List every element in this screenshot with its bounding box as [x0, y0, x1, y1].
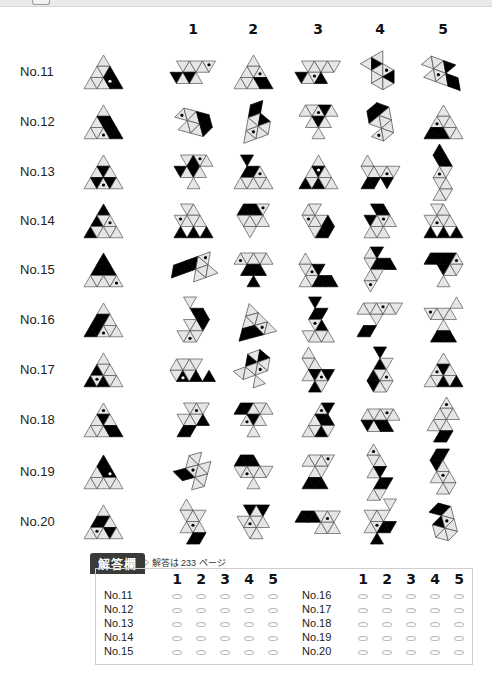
option-figure-2 [236, 203, 271, 239]
answer-bubble-no16-1[interactable] [358, 594, 368, 599]
answer-bubble-no11-3[interactable] [220, 594, 230, 599]
triangle-figure-icon [236, 504, 271, 540]
option-figure-4 [360, 408, 401, 433]
triangle-figure-icon [366, 54, 394, 90]
answer-bubble-no19-1[interactable] [358, 636, 368, 641]
answer-bubble-no17-3[interactable] [406, 608, 416, 613]
triangle-figure-icon [423, 203, 464, 239]
answer-bubble-no13-3[interactable] [220, 622, 230, 627]
answer-bubble-no17-1[interactable] [358, 608, 368, 613]
answer-bubble-no14-2[interactable] [196, 636, 206, 641]
triangle-figure-icon [298, 252, 339, 288]
top-tab [32, 0, 50, 5]
answer-bubble-no17-5[interactable] [454, 608, 464, 613]
answer-bubble-no20-4[interactable] [430, 650, 440, 655]
triangle-figure-icon [294, 510, 342, 535]
answer-bubble-no18-3[interactable] [406, 622, 416, 627]
option-figure-5 [423, 104, 464, 140]
answer-bubble-no14-1[interactable] [172, 636, 182, 641]
triangle-figure-icon [169, 358, 217, 383]
reference-figure [83, 454, 124, 490]
answer-bubble-no11-5[interactable] [268, 594, 278, 599]
option-figure-4 [366, 443, 394, 501]
triangle-figure-icon [83, 402, 124, 438]
answer-bubble-no13-1[interactable] [172, 622, 182, 627]
answer-bubble-no15-5[interactable] [268, 650, 278, 655]
answer-bubble-no16-5[interactable] [454, 594, 464, 599]
triangle-figure-icon [83, 504, 124, 540]
answer-bubble-no14-5[interactable] [268, 636, 278, 641]
answer-bubble-no15-2[interactable] [196, 650, 206, 655]
answer-bubble-no12-3[interactable] [220, 608, 230, 613]
answer-bubble-no11-1[interactable] [172, 594, 182, 599]
answer-bubble-no14-3[interactable] [220, 636, 230, 641]
answer-bubble-no12-4[interactable] [244, 608, 254, 613]
option-figure-5 [423, 296, 464, 343]
reference-figure [83, 504, 124, 540]
option-figure-3 [298, 154, 339, 190]
answer-bubble-no11-4[interactable] [244, 594, 254, 599]
answer-bubble-no19-4[interactable] [430, 636, 440, 641]
answer-bubble-no18-5[interactable] [454, 622, 464, 627]
answer-bubble-no19-3[interactable] [406, 636, 416, 641]
answer-bubble-no14-4[interactable] [244, 636, 254, 641]
option-figure-5 [419, 60, 467, 85]
answer-bubble-no12-2[interactable] [196, 608, 206, 613]
answer-column-header-5: 5 [265, 571, 281, 587]
problem-label: No.19 [20, 464, 55, 479]
problem-label: No.20 [20, 514, 55, 529]
option-figure-1 [169, 258, 217, 283]
triangle-figure-icon [301, 454, 336, 490]
option-figure-3 [298, 104, 339, 140]
answer-bubble-no18-4[interactable] [430, 622, 440, 627]
option-figure-4 [366, 346, 394, 393]
answer-column-header-4: 4 [241, 571, 257, 587]
option-figure-4 [363, 498, 398, 545]
option-figure-1 [176, 402, 211, 438]
triangle-figure-icon [83, 54, 124, 90]
answer-bubble-no20-5[interactable] [454, 650, 464, 655]
answer-bubble-no11-2[interactable] [196, 594, 206, 599]
answer-bubble-no15-4[interactable] [244, 650, 254, 655]
answer-bubble-no18-2[interactable] [382, 622, 392, 627]
answer-bubble-no18-1[interactable] [358, 622, 368, 627]
answer-bubble-no12-1[interactable] [172, 608, 182, 613]
triangle-figure-icon [423, 352, 464, 388]
answer-bubble-no16-2[interactable] [382, 594, 392, 599]
option-figure-5 [423, 203, 464, 239]
answer-row-label: No.15 [104, 645, 133, 657]
option-figure-1 [173, 454, 214, 490]
answer-bubble-no15-3[interactable] [220, 650, 230, 655]
option-figure-1 [169, 358, 217, 383]
answer-bubble-no19-2[interactable] [382, 636, 392, 641]
answer-bubble-no17-4[interactable] [430, 608, 440, 613]
triangle-figure-icon [173, 154, 214, 190]
answer-bubble-no13-5[interactable] [268, 622, 278, 627]
answer-bubble-no13-4[interactable] [244, 622, 254, 627]
answer-bubble-no20-1[interactable] [358, 650, 368, 655]
triangle-figure-icon [83, 203, 124, 239]
answer-bubble-no16-4[interactable] [430, 594, 440, 599]
answer-column-header-1: 1 [169, 571, 185, 587]
answer-bubble-no13-2[interactable] [196, 622, 206, 627]
triangle-figure-icon [83, 454, 124, 490]
option-figure-4 [363, 104, 398, 140]
answer-bubble-no16-3[interactable] [406, 594, 416, 599]
triangle-figure-icon [423, 104, 464, 140]
option-figure-1 [173, 203, 214, 239]
answer-bubble-no20-2[interactable] [382, 650, 392, 655]
answer-bubble-no20-3[interactable] [406, 650, 416, 655]
option-header-2: 2 [243, 21, 263, 37]
triangle-figure-icon [423, 252, 464, 288]
problem-label: No.18 [20, 412, 55, 427]
answer-bubble-no12-5[interactable] [268, 608, 278, 613]
triangle-figure-icon [429, 448, 457, 495]
option-figure-2 [233, 302, 274, 338]
triangle-figure-icon [233, 302, 274, 338]
option-figure-2 [233, 454, 274, 490]
answer-bubble-no17-2[interactable] [382, 608, 392, 613]
triangle-figure-icon [233, 154, 274, 190]
option-figure-2 [233, 402, 274, 438]
answer-bubble-no15-1[interactable] [172, 650, 182, 655]
answer-bubble-no19-5[interactable] [454, 636, 464, 641]
